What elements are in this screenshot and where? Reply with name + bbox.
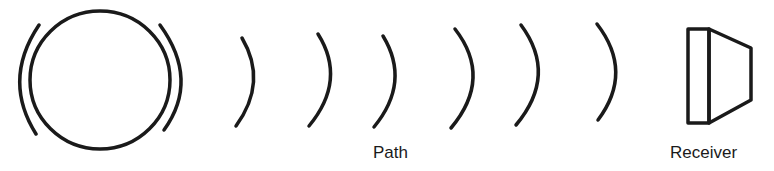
path-label: Path (373, 143, 408, 163)
path-wave-6 (597, 24, 616, 120)
path-wave-3 (374, 36, 395, 127)
source (20, 11, 181, 149)
receiver-icon (688, 29, 751, 123)
receiver-body (688, 29, 709, 123)
path-wave-1 (236, 38, 254, 126)
source-circle (30, 11, 170, 149)
path-waves (236, 24, 616, 128)
receiver-label: Receiver (670, 143, 737, 163)
receiver-horn (709, 29, 751, 123)
path-wave-4 (451, 29, 473, 128)
path-wave-5 (516, 25, 538, 125)
path-wave-2 (309, 34, 331, 126)
